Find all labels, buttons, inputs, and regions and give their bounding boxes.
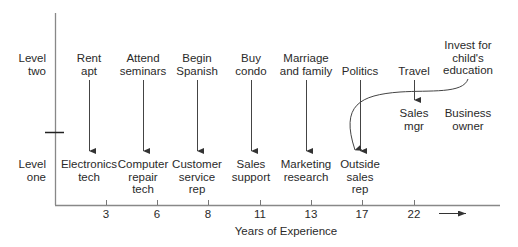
progression-arrows [90, 80, 415, 151]
tick-label: 17 [356, 208, 369, 220]
event-travel: Travel [398, 65, 430, 78]
event-marriage-family: Marriage and family [280, 52, 332, 77]
tick-label: 11 [254, 208, 266, 220]
tick-label: 6 [154, 208, 160, 220]
x-ticks [107, 200, 415, 205]
x-axis-title: Years of Experience [235, 225, 338, 237]
tick-label: 8 [205, 208, 211, 220]
level-two-label: Level two [6, 52, 46, 77]
event-rent-apt: Rent apt [77, 52, 101, 77]
event-begin-spanish: Begin Spanish [176, 52, 218, 77]
job-business-owner: Business owner [445, 107, 492, 132]
job-sales-mgr: Sales mgr [400, 107, 429, 132]
job-outside-sales-rep: Outside sales rep [340, 158, 380, 196]
event-buy-condo: Buy condo [235, 52, 266, 77]
job-sales-support: Sales support [232, 158, 270, 183]
tick-label: 3 [103, 208, 109, 220]
level-one-label: Level one [6, 158, 46, 183]
tick-label: 13 [305, 208, 318, 220]
event-invest-education: Invest for child's education [443, 39, 493, 77]
job-marketing-research: Marketing research [281, 158, 332, 183]
job-computer-repair-tech: Computer repair tech [118, 158, 169, 196]
tick-label: 22 [408, 208, 421, 220]
event-politics: Politics [342, 65, 378, 78]
job-customer-service-rep: Customer service rep [172, 158, 222, 196]
job-electronics-tech: Electronics tech [61, 158, 117, 183]
event-attend-seminars: Attend seminars [120, 52, 167, 77]
